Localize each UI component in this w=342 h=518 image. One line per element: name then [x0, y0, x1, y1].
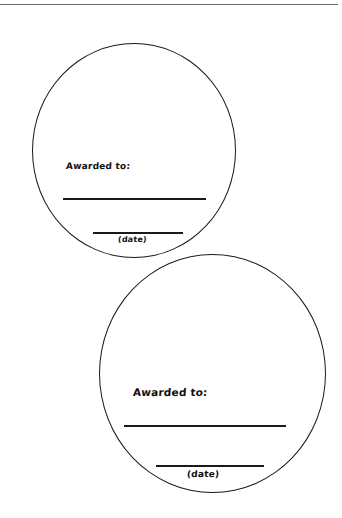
awarded-to-label: Awarded to:: [66, 161, 131, 171]
date-label: (date): [187, 469, 220, 479]
recipient-name-line[interactable]: [124, 425, 286, 427]
date-line[interactable]: [93, 232, 183, 234]
award-badge-1: [32, 43, 236, 258]
award-badge-2: [99, 254, 326, 493]
awarded-to-label: Awarded to:: [133, 386, 208, 398]
date-line[interactable]: [156, 465, 264, 467]
recipient-name-line[interactable]: [63, 198, 206, 200]
top-rule: [0, 4, 338, 5]
date-label: (date): [118, 235, 148, 244]
